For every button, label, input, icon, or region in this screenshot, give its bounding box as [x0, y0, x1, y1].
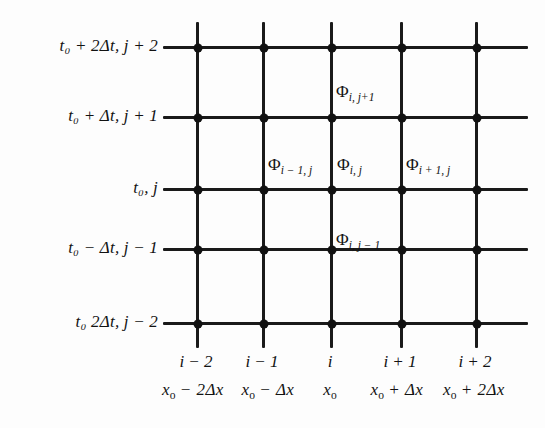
space-axis-index-text: i + 1 [383, 352, 416, 371]
phi-glyph: Φ [337, 155, 350, 174]
grid-node [397, 319, 406, 328]
space-axis-coordinate-x-minus-dx: xo − Δx [242, 380, 295, 400]
grid-node [259, 319, 268, 328]
space-axis-index-i: i [328, 352, 333, 372]
grid-node [193, 113, 202, 122]
time-axis-label-text: t₀ + 2Δt, j + 2 [59, 36, 158, 55]
time-axis-label-t-plus-2dt: t₀ + 2Δt, j + 2 [59, 36, 158, 56]
time-axis-label-text: t₀, j [133, 178, 158, 197]
grid-node [472, 245, 481, 254]
x-subscript: o [249, 389, 255, 402]
grid-node [472, 319, 481, 328]
node-label-phi-i-j: Φi, j [337, 155, 362, 175]
space-axis-index-text: i [328, 352, 333, 371]
phi-subscript: i + 1, j [419, 164, 451, 177]
grid-node [397, 43, 406, 52]
space-axis-coordinate-x-plus-dx: xo + Δx [371, 380, 424, 400]
time-axis-label-t-minus-dt: t₀ − Δt, j − 1 [68, 238, 158, 258]
grid-node [327, 113, 336, 122]
grid-node [193, 43, 202, 52]
grid-node [397, 245, 406, 254]
space-axis-index-i-minus-1: i − 1 [245, 352, 278, 372]
x-offset: − Δx [259, 380, 294, 399]
phi-subscript: i, j − 1 [349, 239, 381, 252]
x-symbol: x [443, 380, 451, 399]
grid-node [193, 319, 202, 328]
grid-node [472, 43, 481, 52]
x-offset: + Δx [388, 380, 423, 399]
grid-node [327, 245, 336, 254]
x-symbol: x [371, 380, 379, 399]
phi-subscript: i − 1, j [281, 164, 313, 177]
finite-difference-grid-figure: t₀ + 2Δt, j + 2 t₀ + Δt, j + 1 t₀, j t₀ … [0, 0, 545, 428]
time-axis-label-text: t₀ + Δt, j + 1 [68, 106, 158, 125]
grid-node [397, 185, 406, 194]
phi-glyph: Φ [406, 155, 419, 174]
space-axis-coordinate-x-plus-2dx: xo + 2Δx [443, 380, 505, 400]
node-label-phi-i-plus-1-j: Φi + 1, j [406, 155, 450, 175]
grid-node [327, 319, 336, 328]
x-symbol: x [162, 380, 170, 399]
x-subscript: o [451, 389, 457, 402]
grid-node [327, 43, 336, 52]
grid-node [259, 185, 268, 194]
x-symbol: x [323, 380, 331, 399]
time-axis-label-text: t₀ 2Δt, j − 2 [76, 312, 158, 331]
phi-glyph: Φ [268, 155, 281, 174]
phi-subscript: i, j [350, 164, 362, 177]
x-offset: + 2Δx [461, 380, 505, 399]
space-axis-index-i-plus-2: i + 2 [458, 352, 491, 372]
space-axis-index-text: i + 2 [458, 352, 491, 371]
space-axis-index-i-plus-1: i + 1 [383, 352, 416, 372]
time-axis-label-text: t₀ − Δt, j − 1 [68, 238, 158, 257]
grid-node [193, 185, 202, 194]
x-subscript: o [170, 389, 176, 402]
space-axis-coordinate-x-zero: xo [323, 380, 336, 400]
grid-node [259, 43, 268, 52]
grid-node [259, 113, 268, 122]
x-symbol: x [242, 380, 250, 399]
grid-node [193, 245, 202, 254]
grid-node [397, 113, 406, 122]
space-axis-index-text: i − 1 [245, 352, 278, 371]
phi-subscript: i, j+1 [349, 91, 375, 104]
time-axis-label-t-zero: t₀, j [133, 178, 158, 198]
node-label-phi-i-j-minus-1: Φi, j − 1 [336, 230, 380, 250]
space-axis-index-text: i − 2 [179, 352, 212, 371]
time-axis-label-t-plus-dt: t₀ + Δt, j + 1 [68, 106, 158, 126]
phi-glyph: Φ [336, 230, 349, 249]
phi-glyph: Φ [336, 82, 349, 101]
grid-node [472, 185, 481, 194]
node-label-phi-i-j-plus-1: Φi, j+1 [336, 82, 374, 102]
grid-node [259, 245, 268, 254]
x-subscript: o [331, 389, 337, 402]
grid-node [327, 185, 336, 194]
time-axis-label-t-minus-2dt: t₀ 2Δt, j − 2 [76, 312, 158, 332]
grid-node [472, 113, 481, 122]
space-axis-coordinate-x-minus-2dx: xo − 2Δx [162, 380, 224, 400]
space-axis-index-i-minus-2: i − 2 [179, 352, 212, 372]
x-offset: − 2Δx [180, 380, 224, 399]
node-label-phi-i-minus-1-j: Φi − 1, j [268, 155, 312, 175]
x-subscript: o [378, 389, 384, 402]
